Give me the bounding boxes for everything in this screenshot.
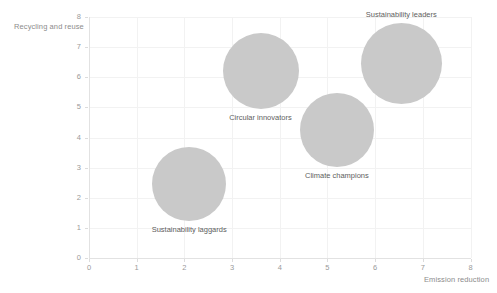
gridline-horizontal [89,198,471,199]
y-tick-label: 7 [67,42,81,51]
x-tick-mark [137,259,138,262]
y-tick-label: 1 [67,223,81,232]
bubble-label: Circular innovators [229,113,292,122]
x-tick-mark [327,259,328,262]
y-tick-mark [85,198,88,199]
y-tick-mark [85,138,88,139]
x-tick-mark [280,259,281,262]
x-tick-label: 8 [463,263,479,272]
bubble-point[interactable] [361,23,442,104]
x-tick-mark [184,259,185,262]
y-tick-label: 6 [67,72,81,81]
y-axis-title: Recycling and reuse [14,22,84,31]
x-tick-mark [375,259,376,262]
x-tick-mark [423,259,424,262]
x-tick-label: 7 [415,263,431,272]
x-tick-label: 0 [81,263,97,272]
y-axis-line [89,17,90,259]
x-tick-label: 1 [129,263,145,272]
y-tick-mark [85,228,88,229]
y-tick-label: 4 [67,133,81,142]
x-tick-mark [89,259,90,262]
y-tick-label: 5 [67,102,81,111]
x-tick-label: 4 [272,263,288,272]
x-tick-label: 5 [319,263,335,272]
gridline-horizontal [89,138,471,139]
gridline-horizontal [89,168,471,169]
y-tick-label: 8 [67,12,81,21]
bubble-point[interactable] [300,93,374,167]
bubble-label: Climate champions [305,171,369,180]
bubble-point[interactable] [223,33,299,109]
x-tick-label: 2 [176,263,192,272]
y-tick-mark [85,77,88,78]
gridline-horizontal [89,228,471,229]
x-tick-mark [471,259,472,262]
y-tick-label: 0 [67,253,81,262]
gridline-vertical [471,17,472,258]
bubble-label: Sustainability laggards [152,225,227,234]
y-tick-mark [85,168,88,169]
y-tick-label: 3 [67,163,81,172]
y-tick-mark [85,47,88,48]
x-tick-label: 6 [367,263,383,272]
y-tick-label: 2 [67,193,81,202]
bubble-label: Sustainability leaders [366,10,437,19]
gridline-horizontal [89,107,471,108]
bubble-chart: Recycling and reuse Emission reduction 0… [0,0,497,293]
y-tick-mark [85,107,88,108]
x-tick-mark [232,259,233,262]
y-tick-mark [85,17,88,18]
x-tick-label: 3 [224,263,240,272]
bubble-point[interactable] [152,147,226,221]
x-axis-title: Emission reduction [424,275,489,284]
y-tick-mark [85,258,88,259]
